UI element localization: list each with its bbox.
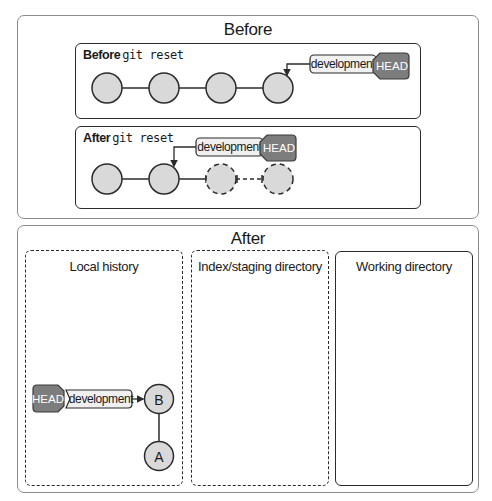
- commit-node-b: B: [145, 385, 174, 414]
- branch-pointer-arrow: [174, 147, 196, 166]
- commit-node: [92, 164, 122, 194]
- commit-node: [263, 73, 293, 103]
- commit-node: [149, 73, 179, 103]
- orphaned-commit-node: [263, 164, 293, 194]
- before-reset-head-badge: HEAD: [373, 53, 409, 79]
- commit-node: [92, 73, 122, 103]
- orphaned-commit-node: [206, 164, 236, 194]
- local-history-head-badge: HEAD: [32, 385, 64, 412]
- before-reset-commit-graph: [92, 64, 310, 103]
- local-history-branch-label: development: [66, 390, 134, 408]
- svg-text:HEAD: HEAD: [32, 393, 64, 405]
- after-reset-branch-label: development: [196, 138, 263, 156]
- svg-text:development: development: [311, 57, 376, 71]
- svg-text:development: development: [197, 140, 262, 154]
- svg-text:development: development: [69, 392, 134, 406]
- svg-text:HEAD: HEAD: [263, 142, 295, 154]
- commit-node: [149, 164, 179, 194]
- svg-text:B: B: [154, 392, 163, 408]
- before-reset-branch-label: development: [310, 55, 376, 73]
- svg-text:A: A: [154, 449, 164, 465]
- diagram-graphics: development HEAD development HEAD HEAD d…: [0, 0, 492, 501]
- branch-pointer-arrow: [287, 64, 310, 75]
- after-reset-head-badge: HEAD: [260, 135, 296, 161]
- svg-text:HEAD: HEAD: [376, 60, 408, 72]
- commit-node: [206, 73, 236, 103]
- commit-node-a: A: [145, 442, 174, 471]
